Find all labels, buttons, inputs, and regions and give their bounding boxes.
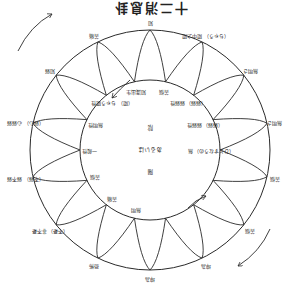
petal-arc xyxy=(33,150,87,181)
petal-arc xyxy=(166,205,204,258)
petal-arc xyxy=(97,205,135,258)
outer-node-label: 恐怖 xyxy=(89,263,99,270)
inner-node-label: 一般性 xyxy=(82,148,97,155)
outer-node-label: 苦痛 xyxy=(89,33,99,40)
center-text-middle: あるいは xyxy=(138,146,162,153)
outer-node-label: 知弱 xyxy=(45,68,55,75)
outer-node-label: 無明さ xyxy=(243,68,258,75)
outer-node-label: 無明さ xyxy=(267,120,282,127)
petal-arc xyxy=(166,42,204,95)
petal-arc xyxy=(56,75,106,120)
petal-arc xyxy=(194,180,244,225)
outer-node-label: （ちゃう） 陽中之陽 xyxy=(182,33,229,40)
outer-node-label: （弱心） 心弱弱 xyxy=(7,120,44,127)
inner-node-label: （弱弱） 弱弱性 xyxy=(187,122,224,129)
petal-arc xyxy=(97,42,135,95)
inner-node-label: （陽） ちゃう陽性 xyxy=(91,100,133,107)
rosette-diagram: 十二消息卦 坤為恐怖（不憂） 非不憂（不弱） 弱不弱（弱心） 心弱弱知弱苦痛知（… xyxy=(0,0,300,294)
inner-node-label: 苦悩 xyxy=(90,174,100,181)
diagram-title: 十二消息卦 xyxy=(113,1,188,16)
outer-node-label: 坤為 xyxy=(201,263,211,270)
center-text-bottom: 陰 xyxy=(147,124,153,132)
inner-node-label: 苦痛 xyxy=(107,196,117,203)
diagram-canvas: 十二消息卦 坤為恐怖（不憂） 非不憂（不弱） 弱不弱（弱心） 心弱弱知弱苦痛知（… xyxy=(0,0,300,294)
inner-node-label: 苦悩 xyxy=(159,89,169,96)
outer-node-label: （不憂） 非不憂 xyxy=(32,228,69,235)
petal-arc xyxy=(194,75,244,120)
inner-node-label: 知識出生 xyxy=(126,89,146,96)
outer-node-label: 知 xyxy=(148,20,153,27)
petal-arc xyxy=(134,218,165,270)
petal-arc xyxy=(134,30,165,82)
rotated-group: 十二消息卦 坤為恐怖（不憂） 非不憂（不弱） 弱不弱（弱心） 心弱弱知弱苦痛知（… xyxy=(7,1,282,283)
petal-arc xyxy=(56,180,106,225)
arrow-outer-1 xyxy=(18,14,52,51)
outer-node-label: 坤為 xyxy=(145,276,155,283)
inner-node-label: （弱弱） 弱弱性 xyxy=(170,100,207,107)
inner-node-label: 無明性 xyxy=(88,122,103,129)
inner-node-label: 無明 xyxy=(131,207,141,214)
outer-node-label: （不弱） 弱不弱 xyxy=(7,176,44,183)
outer-node-label: 苦悩 xyxy=(270,176,280,183)
outer-node-label: 苦悩 xyxy=(245,228,255,235)
center-text-top: 陽 xyxy=(147,168,153,176)
inner-node-label: （ひとすなうの） 無 xyxy=(188,148,235,155)
